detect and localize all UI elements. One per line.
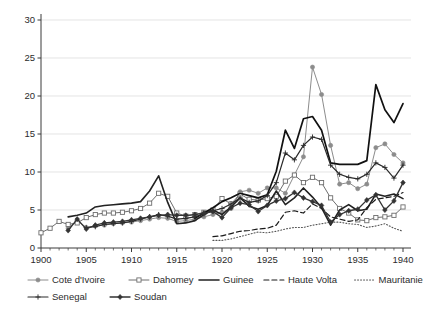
x-tick-label: 1930 — [302, 254, 323, 265]
chart-svg: 0510152025301900190519101915192019251930… — [0, 0, 423, 268]
legend-item-mauritanie[interactable]: Mauritanie — [355, 274, 423, 285]
x-tick-label: 1925 — [257, 254, 278, 265]
x-tick-label: 1920 — [211, 254, 232, 265]
y-tick-label: 10 — [24, 166, 35, 177]
x-tick-label: 1940 — [392, 254, 413, 265]
x-tick-label: 1900 — [30, 254, 51, 265]
y-tick-label: 5 — [30, 204, 35, 215]
y-tick-label: 0 — [30, 242, 35, 253]
x-tick-label: 1910 — [121, 254, 142, 265]
legend-item-senegal[interactable]: Senegal — [28, 291, 87, 302]
y-tick-label: 20 — [24, 90, 35, 101]
legend-label: Senegal — [52, 291, 87, 302]
legend-svg: Cote d'IvoireDahomeyGuineeHaute VoltaMau… — [0, 266, 423, 314]
chart-legend: Cote d'IvoireDahomeyGuineeHaute VoltaMau… — [0, 266, 423, 314]
chart-figure: 0510152025301900190519101915192019251930… — [0, 0, 423, 314]
legend-label: Haute Volta — [288, 274, 338, 285]
plot-area: 0510152025301900190519101915192019251930… — [0, 0, 423, 268]
x-tick-label: 1905 — [76, 254, 97, 265]
legend-item-haute-volta[interactable]: Haute Volta — [264, 274, 338, 285]
legend-label: Soudan — [134, 291, 167, 302]
series-senegal — [84, 134, 406, 230]
y-tick-label: 25 — [24, 52, 35, 63]
y-tick-label: 30 — [24, 14, 35, 25]
legend-item-guinee[interactable]: Guinee — [199, 274, 254, 285]
series-niger — [195, 85, 403, 219]
legend-label: Mauritanie — [379, 274, 423, 285]
series-soudan — [66, 180, 405, 233]
legend-label: Cote d'Ivoire — [52, 274, 105, 285]
legend-item-dahomey[interactable]: Dahomey — [129, 274, 194, 285]
x-tick-label: 1915 — [166, 254, 187, 265]
legend-item-soudan[interactable]: Soudan — [110, 291, 167, 302]
legend-item-cote-d-ivoire[interactable]: Cote d'Ivoire — [28, 274, 105, 285]
x-tick-label: 1935 — [347, 254, 368, 265]
legend-label: Guinee — [223, 274, 254, 285]
y-tick-label: 15 — [24, 128, 35, 139]
legend-label: Dahomey — [153, 274, 194, 285]
